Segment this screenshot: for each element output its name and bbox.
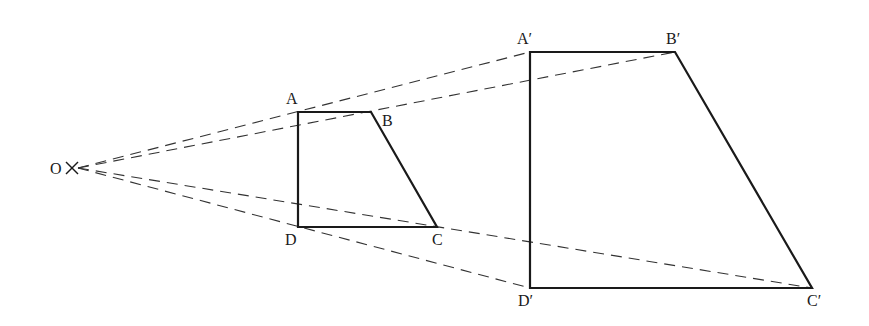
vertex-label: A	[286, 90, 298, 107]
vertex-label: A′	[517, 30, 532, 47]
ray-O-to-B	[78, 52, 675, 168]
label-O: O	[50, 160, 62, 177]
vertex-label: C	[432, 231, 443, 248]
enlargement-diagram: O ABCDA′B′C′D′	[0, 0, 869, 326]
quadrilateral-ABCD	[298, 112, 437, 227]
vertex-labels: ABCDA′B′C′D′	[285, 30, 821, 309]
construction-rays	[78, 52, 812, 288]
quadrilateral-A-prime-B-prime-C-prime-D-prime	[530, 52, 812, 288]
vertex-label: D′	[518, 292, 533, 309]
centre-of-enlargement-O: O	[50, 160, 78, 177]
vertex-label: C′	[807, 292, 821, 309]
ray-O-to-C	[78, 168, 812, 288]
vertex-label: B	[382, 112, 393, 129]
vertex-label: D	[285, 231, 297, 248]
ray-O-to-A	[78, 52, 530, 168]
vertex-label: B′	[666, 30, 680, 47]
